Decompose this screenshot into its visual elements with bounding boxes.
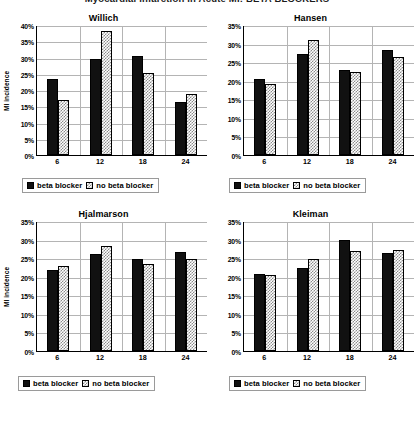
bar-willich-6mo-beta-blocker bbox=[47, 79, 58, 155]
y-tick-label: 20% bbox=[228, 274, 241, 281]
y-tick-label: 10% bbox=[228, 311, 241, 318]
bar-group-24mo bbox=[165, 26, 208, 155]
x-tick-label: 6 bbox=[243, 353, 286, 362]
bar-group-18mo bbox=[329, 26, 372, 155]
bar-kleiman-6mo-no-beta-blocker bbox=[265, 275, 276, 351]
x-tick-label: 18 bbox=[122, 157, 165, 166]
bar-kleiman-24mo-beta-blocker bbox=[382, 253, 393, 351]
legend-item-no_beta_blocker[interactable]: no beta blocker bbox=[293, 181, 360, 190]
bar-hjalmarson-6mo-no-beta-blocker bbox=[58, 266, 69, 351]
y-tick-label: 20% bbox=[21, 88, 34, 95]
plot-canvas-kleiman bbox=[243, 222, 414, 352]
bar-hjalmarson-12mo-no-beta-blocker bbox=[101, 246, 112, 351]
y-tick-label: 5% bbox=[231, 134, 241, 141]
bar-group-6mo bbox=[37, 222, 80, 351]
bar-willich-24mo-beta-blocker bbox=[175, 102, 186, 155]
bar-willich-24mo-no-beta-blocker bbox=[186, 94, 197, 155]
bar-hansen-24mo-beta-blocker bbox=[382, 50, 393, 155]
legend-swatch-no_beta_blocker bbox=[82, 380, 89, 387]
y-axis-label-hjalmarson: MI incidence bbox=[0, 222, 11, 352]
x-tick-label: 18 bbox=[329, 353, 372, 362]
x-tick-label: 18 bbox=[329, 157, 372, 166]
y-tick-label: 5% bbox=[231, 330, 241, 337]
y-tick-label: 15% bbox=[228, 293, 241, 300]
bar-hjalmarson-24mo-beta-blocker bbox=[175, 252, 186, 351]
y-axis-ticks-willich: 0%5%10%15%20%25%30%35%40% bbox=[11, 26, 36, 156]
legend-label-beta_blocker: beta blocker bbox=[33, 379, 78, 388]
chart-panel-hansen: Hansen0%5%10%15%20%25%30%35%6121824beta … bbox=[207, 12, 414, 208]
legend-item-beta_blocker[interactable]: beta blocker bbox=[234, 379, 289, 388]
legend-item-beta_blocker[interactable]: beta blocker bbox=[234, 181, 289, 190]
plot-area-willich: MI incidence0%5%10%15%20%25%30%35%40% bbox=[0, 26, 207, 156]
bar-group-6mo bbox=[244, 26, 287, 155]
bar-group-24mo bbox=[165, 222, 208, 351]
legend-label-beta_blocker: beta blocker bbox=[37, 181, 82, 190]
x-tick-label: 6 bbox=[243, 157, 286, 166]
y-tick-label: 15% bbox=[21, 104, 34, 111]
chart-panel-kleiman: Kleiman0%5%10%15%20%25%30%35%6121824beta… bbox=[207, 208, 414, 408]
y-tick-label: 25% bbox=[228, 256, 241, 263]
legend-item-no_beta_blocker[interactable]: no beta blocker bbox=[86, 181, 153, 190]
x-tick-label: 12 bbox=[286, 157, 329, 166]
y-tick-label: 15% bbox=[21, 293, 34, 300]
bar-willich-12mo-beta-blocker bbox=[90, 59, 101, 155]
x-tick-label: 12 bbox=[79, 353, 122, 362]
bar-hjalmarson-24mo-no-beta-blocker bbox=[186, 259, 197, 351]
page-title: Myocardial infarction in Acute MI: BETA … bbox=[0, 0, 414, 4]
chart-panel-grid: WillichMI incidence0%5%10%15%20%25%30%35… bbox=[0, 12, 414, 422]
legend-swatch-beta_blocker bbox=[23, 380, 30, 387]
x-tick-label: 6 bbox=[36, 353, 79, 362]
legend-swatch-no_beta_blocker bbox=[293, 380, 300, 387]
bar-group-6mo bbox=[244, 222, 287, 351]
y-tick-label: 0% bbox=[24, 349, 34, 356]
y-tick-label: 30% bbox=[21, 55, 34, 62]
y-tick-label: 20% bbox=[21, 274, 34, 281]
y-tick-label: 20% bbox=[228, 78, 241, 85]
plot-area-hjalmarson: MI incidence0%5%10%15%20%25%30%35% bbox=[0, 222, 207, 352]
legend-item-beta_blocker[interactable]: beta blocker bbox=[23, 379, 78, 388]
bar-hansen-6mo-beta-blocker bbox=[254, 79, 265, 156]
chart-panel-willich: WillichMI incidence0%5%10%15%20%25%30%35… bbox=[0, 12, 207, 208]
bar-willich-12mo-no-beta-blocker bbox=[101, 31, 112, 155]
x-tick-label: 24 bbox=[371, 353, 414, 362]
legend-swatch-beta_blocker bbox=[234, 380, 241, 387]
legend-label-no_beta_blocker: no beta blocker bbox=[96, 181, 153, 190]
y-axis-label-hansen bbox=[207, 26, 218, 156]
x-tick-label: 12 bbox=[79, 157, 122, 166]
y-tick-label: 40% bbox=[21, 23, 34, 30]
bar-group-24mo bbox=[372, 222, 414, 351]
bar-kleiman-18mo-no-beta-blocker bbox=[350, 251, 361, 351]
bar-group-18mo bbox=[329, 222, 372, 351]
y-axis-ticks-hjalmarson: 0%5%10%15%20%25%30%35% bbox=[11, 222, 36, 352]
y-axis-label-kleiman bbox=[207, 222, 218, 352]
legend-label-no_beta_blocker: no beta blocker bbox=[303, 181, 360, 190]
legend-item-no_beta_blocker[interactable]: no beta blocker bbox=[293, 379, 360, 388]
bar-hjalmarson-12mo-beta-blocker bbox=[90, 254, 101, 351]
bar-kleiman-12mo-no-beta-blocker bbox=[308, 259, 319, 351]
legend-kleiman: beta blockerno beta blocker bbox=[229, 376, 366, 391]
legend-swatch-beta_blocker bbox=[27, 182, 34, 189]
bar-hansen-12mo-no-beta-blocker bbox=[308, 40, 319, 156]
x-tick-label: 24 bbox=[164, 157, 207, 166]
bar-hansen-6mo-no-beta-blocker bbox=[265, 84, 276, 155]
x-tick-label: 12 bbox=[286, 353, 329, 362]
x-tick-label: 18 bbox=[122, 353, 165, 362]
x-tick-label: 6 bbox=[36, 157, 79, 166]
legend-item-no_beta_blocker[interactable]: no beta blocker bbox=[82, 379, 149, 388]
legend-hjalmarson: beta blockerno beta blocker bbox=[18, 376, 155, 391]
bar-groups bbox=[244, 222, 414, 351]
bar-group-24mo bbox=[372, 26, 414, 155]
y-tick-label: 5% bbox=[24, 136, 34, 143]
x-tick-label: 24 bbox=[371, 157, 414, 166]
y-tick-label: 25% bbox=[228, 60, 241, 67]
bar-hansen-18mo-beta-blocker bbox=[339, 70, 350, 155]
bar-willich-18mo-no-beta-blocker bbox=[143, 73, 154, 155]
y-axis-label-text: MI incidence bbox=[2, 267, 9, 307]
y-tick-label: 5% bbox=[24, 330, 34, 337]
legend-label-no_beta_blocker: no beta blocker bbox=[92, 379, 149, 388]
bar-willich-6mo-no-beta-blocker bbox=[58, 100, 69, 155]
legend-label-beta_blocker: beta blocker bbox=[244, 379, 289, 388]
y-tick-label: 10% bbox=[228, 115, 241, 122]
y-tick-label: 35% bbox=[21, 219, 34, 226]
legend-item-beta_blocker[interactable]: beta blocker bbox=[27, 181, 82, 190]
